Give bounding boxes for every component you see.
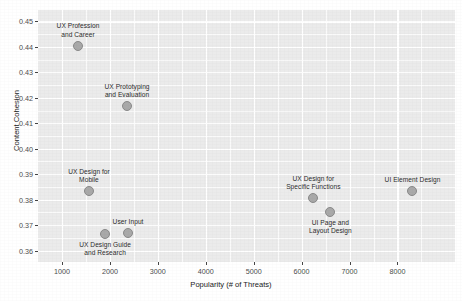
gridline-minor-horizontal	[38, 187, 455, 188]
x-axis-tick-label: 6000	[294, 267, 310, 276]
data-point[interactable]	[84, 186, 94, 196]
y-axis-tick-label: 0.45	[19, 17, 33, 26]
x-axis-tick-label: 7000	[342, 267, 358, 276]
data-point[interactable]	[407, 186, 417, 196]
scatter-plot-figure: UX Profession and CareerUX Prototyping a…	[0, 0, 462, 301]
gridline-major-horizontal	[38, 98, 455, 99]
y-axis-tick-mark	[35, 21, 38, 22]
x-axis-tick-mark	[62, 262, 63, 265]
x-axis-tick-label: 8000	[389, 267, 405, 276]
data-point-label: UX Profession and Career	[57, 22, 100, 38]
gridline-minor-horizontal	[38, 34, 455, 35]
x-axis-tick-mark	[350, 262, 351, 265]
x-axis-tick-label: 3000	[150, 267, 166, 276]
y-axis-tick-mark	[35, 98, 38, 99]
data-point-label: UI Element Design	[385, 176, 441, 184]
y-axis-tick-mark	[35, 47, 38, 48]
x-axis-tick-label: 1000	[54, 267, 70, 276]
data-point-label: UX Design for Specific Functions	[286, 175, 340, 191]
gridline-major-horizontal	[38, 200, 455, 201]
y-axis-tick-mark	[35, 149, 38, 150]
gridline-minor-vertical	[230, 10, 231, 262]
y-axis-tick-label: 0.37	[19, 221, 33, 230]
gridline-major-vertical	[158, 10, 159, 262]
data-point[interactable]	[123, 228, 133, 238]
gridline-minor-horizontal	[38, 136, 455, 137]
data-point-label: UX Prototyping and Evaluation	[105, 83, 150, 99]
gridline-minor-horizontal	[38, 161, 455, 162]
y-axis-tick-label: 0.41	[19, 119, 33, 128]
y-axis-tick-label: 0.38	[19, 195, 33, 204]
x-axis-tick-label: 4000	[198, 267, 214, 276]
gridline-minor-vertical	[278, 10, 279, 262]
y-axis-tick-label: 0.36	[19, 246, 33, 255]
plot-panel: UX Profession and CareerUX Prototyping a…	[38, 10, 455, 262]
x-axis-tick-mark	[397, 262, 398, 265]
y-axis-tick-label: 0.39	[19, 170, 33, 179]
gridline-major-vertical	[254, 10, 255, 262]
gridline-major-horizontal	[38, 21, 455, 22]
x-axis-tick-mark	[254, 262, 255, 265]
gridline-major-horizontal	[38, 47, 455, 48]
x-axis-tick-label: 5000	[246, 267, 262, 276]
data-point-label: UI Page and Layout Design	[309, 219, 352, 235]
y-axis-tick-label: 0.42	[19, 93, 33, 102]
x-axis-tick-label: 2000	[102, 267, 118, 276]
gridline-minor-horizontal	[38, 111, 455, 112]
gridline-major-vertical	[62, 10, 63, 262]
gridline-minor-vertical	[374, 10, 375, 262]
y-axis-tick-mark	[35, 72, 38, 73]
y-axis-tick-label: 0.44	[19, 42, 33, 51]
gridline-minor-vertical	[421, 10, 422, 262]
gridline-minor-horizontal	[38, 60, 455, 61]
x-axis-tick-mark	[158, 262, 159, 265]
gridline-major-horizontal	[38, 72, 455, 73]
x-axis-tick-mark	[302, 262, 303, 265]
gridline-minor-horizontal	[38, 85, 455, 86]
gridline-major-horizontal	[38, 149, 455, 150]
x-axis-tick-mark	[110, 262, 111, 265]
data-point[interactable]	[308, 193, 318, 203]
gridline-major-vertical	[397, 10, 398, 262]
gridline-major-vertical	[206, 10, 207, 262]
gridline-major-vertical	[302, 10, 303, 262]
y-axis-tick-mark	[35, 123, 38, 124]
gridline-major-horizontal	[38, 123, 455, 124]
x-axis-tick-mark	[206, 262, 207, 265]
gridline-minor-vertical	[86, 10, 87, 262]
gridline-minor-horizontal	[38, 238, 455, 239]
x-axis-title: Popularity (# of Threats)	[0, 280, 462, 289]
gridline-minor-horizontal	[38, 212, 455, 213]
data-point-label: UX Design for Mobile	[68, 168, 110, 184]
y-axis-tick-mark	[35, 251, 38, 252]
data-point[interactable]	[325, 207, 335, 217]
y-axis-tick-mark	[35, 174, 38, 175]
y-axis-title: Content Cohesion	[12, 61, 21, 181]
y-axis-tick-label: 0.40	[19, 144, 33, 153]
y-axis-tick-label: 0.43	[19, 68, 33, 77]
data-point-label: User Input	[113, 218, 144, 226]
gridline-major-horizontal	[38, 225, 455, 226]
data-point-label: UX Design Guide and Research	[79, 241, 131, 257]
gridline-major-vertical	[110, 10, 111, 262]
data-point[interactable]	[73, 41, 83, 51]
y-axis-tick-mark	[35, 225, 38, 226]
gridline-minor-vertical	[182, 10, 183, 262]
data-point[interactable]	[100, 229, 110, 239]
y-axis-tick-mark	[35, 200, 38, 201]
